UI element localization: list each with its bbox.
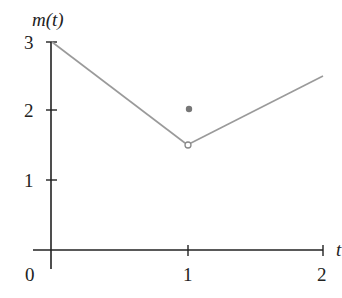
filled-point — [186, 106, 192, 112]
x-tick-label-0: 0 — [25, 264, 35, 285]
line-segment-left — [52, 42, 185, 143]
x-axis-label: t — [336, 239, 342, 260]
y-tick-label-3: 3 — [24, 32, 34, 53]
line-segment-right — [191, 76, 323, 143]
y-axis-label: m(t) — [32, 9, 64, 31]
x-tick-label-1: 1 — [183, 264, 193, 285]
y-tick-label-2: 2 — [24, 100, 34, 121]
chart: 3 2 1 0 1 2 m(t) t — [0, 0, 342, 298]
x-tick-label-2: 2 — [317, 264, 327, 285]
open-point — [185, 142, 191, 148]
y-tick-label-1: 1 — [24, 170, 34, 191]
